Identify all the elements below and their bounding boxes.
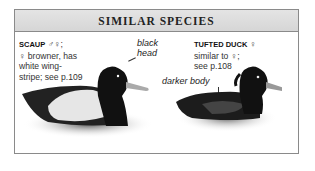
annotation-line1: black <box>137 38 158 48</box>
scaup-desc-line1: ♀ browner, has <box>19 51 83 62</box>
scaup-name: SCAUP <box>19 40 45 49</box>
tufted-name: TUFTED DUCK <box>194 40 247 49</box>
panel-title: SIMILAR SPECIES <box>98 15 214 27</box>
scaup-sex-symbols: ♂♀; <box>48 39 63 49</box>
tufted-desc-line1: similar to ♀; <box>194 51 256 62</box>
tufted-duck-illustration <box>172 66 282 141</box>
tufted-sex-symbols: ♀ <box>250 39 256 49</box>
annotation-line2: head <box>137 48 158 58</box>
black-head-annotation: black head <box>137 38 158 58</box>
scaup-illustration <box>18 66 158 146</box>
panel-header: SIMILAR SPECIES <box>15 10 298 32</box>
